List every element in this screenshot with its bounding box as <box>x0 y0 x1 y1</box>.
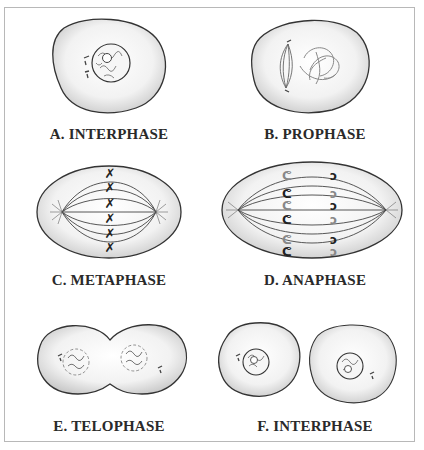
svg-text:ᕦ: ᕦ <box>282 199 292 213</box>
svg-text:ↄ: ↄ <box>330 245 337 259</box>
panel-f-interphase: F. INTERPHASE <box>212 298 418 443</box>
panel-label: D. ANAPHASE <box>212 272 418 289</box>
svg-text:ↄ: ↄ <box>330 199 337 213</box>
svg-text:✗: ✗ <box>105 211 116 226</box>
prophase-cell-illustration <box>212 8 418 128</box>
panel-label: B. PROPHASE <box>212 126 418 143</box>
svg-text:✗: ✗ <box>105 196 116 211</box>
svg-text:ᕦ: ᕦ <box>282 169 292 183</box>
panel-label: C. METAPHASE <box>6 272 212 289</box>
svg-text:✗: ✗ <box>105 226 116 241</box>
panel-d-anaphase: ᕦↄ ᕦↄ ᕦↄ ᕦↄ ᕦↄ ᕦↄ D. ANAPHASE <box>212 152 418 297</box>
panel-b-prophase: B. PROPHASE <box>212 8 418 153</box>
svg-text:ᕦ: ᕦ <box>282 213 292 227</box>
interphase-cell-illustration <box>6 8 212 128</box>
panel-label: A. INTERPHASE <box>6 126 212 143</box>
panel-e-telophase: E. TELOPHASE <box>6 298 212 443</box>
svg-text:ↄ: ↄ <box>330 213 337 227</box>
svg-text:✗: ✗ <box>105 240 116 255</box>
svg-text:✗: ✗ <box>105 166 116 181</box>
anaphase-cell-illustration: ᕦↄ ᕦↄ ᕦↄ ᕦↄ ᕦↄ ᕦↄ <box>212 152 418 270</box>
panel-label: E. TELOPHASE <box>6 418 212 435</box>
svg-text:ↄ: ↄ <box>330 169 337 183</box>
telophase-cell-illustration <box>6 298 212 414</box>
panel-c-metaphase: ✗ ✗ ✗ ✗ ✗ ✗ C. METAPHASE <box>6 152 212 297</box>
svg-text:✗: ✗ <box>105 180 116 195</box>
panel-label: F. INTERPHASE <box>212 418 418 435</box>
panel-a-interphase: A. INTERPHASE <box>6 8 212 153</box>
daughter-cells-illustration <box>212 298 418 414</box>
svg-text:ᕦ: ᕦ <box>282 245 292 259</box>
chromosomes-metaphase-plate: ✗ ✗ ✗ ✗ ✗ ✗ <box>105 166 116 255</box>
metaphase-cell-illustration: ✗ ✗ ✗ ✗ ✗ ✗ <box>6 152 212 270</box>
